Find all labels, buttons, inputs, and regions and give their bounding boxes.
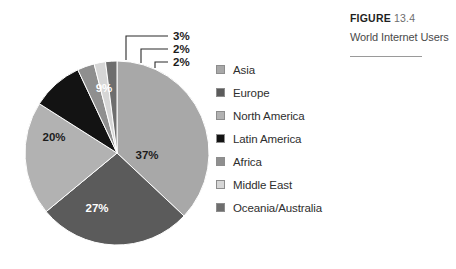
figure-container: 3% 2% 2% 37% 27% 20% 9% Asia Europe Nort…: [0, 0, 456, 269]
legend-item-label: Europe: [233, 87, 269, 99]
slice-label-asia: 37%: [135, 149, 158, 161]
slice-label-europe: 27%: [85, 202, 108, 214]
legend-item[interactable]: Oceania/Australia: [216, 196, 346, 219]
leader-line-africa: [126, 36, 168, 60]
legend-item-label: Africa: [233, 156, 262, 168]
legend-item-label: North America: [233, 110, 305, 122]
callout-label-africa: 3%: [173, 30, 190, 42]
pie-slices-group: [25, 61, 209, 245]
slice-label-latin-america: 9%: [96, 82, 113, 94]
legend-swatch-icon: [216, 157, 225, 166]
figure-caption: FIGURE 13.4 World Internet Users: [350, 12, 454, 57]
figure-caption-line: FIGURE 13.4: [350, 12, 454, 24]
legend-swatch-icon: [216, 111, 225, 120]
legend-swatch-icon: [216, 180, 225, 189]
legend-item-label: Asia: [233, 64, 255, 76]
caption-divider: [350, 56, 422, 57]
slice-label-north-america: 20%: [42, 131, 65, 143]
legend-item[interactable]: Africa: [216, 150, 346, 173]
legend-swatch-icon: [216, 88, 225, 97]
legend-swatch-icon: [216, 134, 225, 143]
legend-item[interactable]: Middle East: [216, 173, 346, 196]
pie-chart-svg: 3% 2% 2% 37% 27% 20% 9%: [0, 0, 230, 269]
callout-label-oceania: 2%: [173, 56, 190, 68]
legend-item[interactable]: Latin America: [216, 127, 346, 150]
figure-label: FIGURE: [350, 12, 391, 24]
legend-item[interactable]: Europe: [216, 81, 346, 104]
legend-swatch-icon: [216, 65, 225, 74]
legend-item-label: Oceania/Australia: [233, 202, 322, 214]
chart-legend: Asia Europe North America Latin America …: [216, 58, 346, 219]
leader-line-oceania: [155, 62, 168, 68]
leader-line-middle-east: [141, 49, 168, 63]
pie-chart: 3% 2% 2% 37% 27% 20% 9%: [0, 0, 230, 269]
legend-item[interactable]: Asia: [216, 58, 346, 81]
legend-swatch-icon: [216, 203, 225, 212]
figure-title: World Internet Users: [350, 31, 454, 43]
legend-item-label: Latin America: [233, 133, 301, 145]
legend-item-label: Middle East: [233, 179, 292, 191]
figure-number: 13.4: [394, 12, 415, 24]
callout-label-middle-east: 2%: [173, 43, 190, 55]
legend-item[interactable]: North America: [216, 104, 346, 127]
